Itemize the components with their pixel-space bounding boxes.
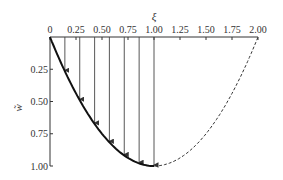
y-tick-label: 0.50 bbox=[31, 96, 49, 107]
x-tick-label: 1.00 bbox=[145, 24, 163, 35]
y-tick-label: 1.00 bbox=[31, 161, 49, 172]
y-axis-title: w̃ bbox=[12, 104, 24, 112]
extension-curve-dashed bbox=[154, 37, 258, 166]
x-tick-label: 0.25 bbox=[67, 24, 85, 35]
chart: 00.250.500.751.001.251.501.752.000.250.5… bbox=[0, 0, 283, 180]
x-tick-label: 2.00 bbox=[249, 24, 267, 35]
x-axis-title: ξ bbox=[152, 10, 157, 23]
x-tick-label: 1.25 bbox=[171, 24, 189, 35]
x-tick-label: 0 bbox=[48, 24, 53, 35]
x-tick-label: 0.75 bbox=[119, 24, 137, 35]
x-tick-label: 0.50 bbox=[93, 24, 111, 35]
y-tick-label: 0.25 bbox=[31, 64, 49, 75]
x-tick-label: 1.75 bbox=[223, 24, 241, 35]
deflection-curve bbox=[50, 37, 154, 166]
x-tick-label: 1.50 bbox=[197, 24, 215, 35]
y-tick-label: 0.75 bbox=[31, 128, 49, 139]
